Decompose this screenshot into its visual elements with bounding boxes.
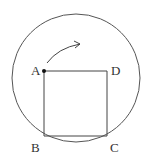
label-d: D	[111, 63, 120, 78]
rotation-arrow-icon	[47, 44, 80, 63]
label-b: B	[31, 140, 40, 155]
label-a: A	[31, 63, 41, 78]
square-abcd	[44, 71, 107, 136]
diagram-canvas: A D B C	[0, 0, 148, 159]
geometry-figure: A D B C	[0, 0, 148, 159]
label-c: C	[110, 140, 119, 155]
circle	[12, 14, 140, 142]
point-a-marker	[42, 69, 46, 73]
